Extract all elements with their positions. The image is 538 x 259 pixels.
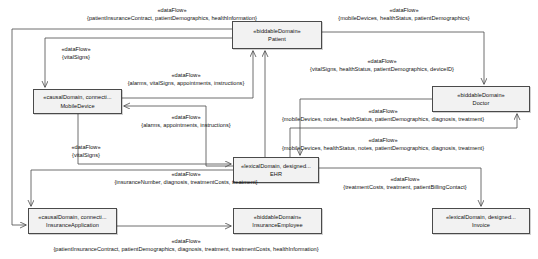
edge-label-e6-phenomena: {alarms, appointments, instructions} xyxy=(141,121,230,129)
edge-label-e5-phenomena: {vitalSigns, healthStatus, patientDemogr… xyxy=(310,65,454,73)
edge-label-e9: «dataFlow» {vitalSigns} xyxy=(71,143,100,159)
edge-label-e4-phenomena: {alarms, vitalSigns, appointments, instr… xyxy=(128,79,245,87)
edge-label-e8-stereotype: «dataFlow» xyxy=(282,136,484,144)
node-patient-name: Patient xyxy=(268,35,286,43)
edge-label-e12-stereotype: «dataFlow» xyxy=(53,237,318,245)
edge-label-e6: «dataFlow» {alarms, appointments, instru… xyxy=(141,113,230,129)
edge-label-e12-phenomena: {patientInsuranceContract, patientDemogr… xyxy=(53,245,318,253)
edge-label-e1-phenomena: {patientInsuranceContract, patientDemogr… xyxy=(87,14,257,22)
node-patient-stereotype: «biddableDomain» xyxy=(253,27,300,35)
node-mobiledevice[interactable]: «causalDomain, connecti... MobileDevice xyxy=(33,89,122,114)
uml-context-diagram: «biddableDomain» Patient «causalDomain, … xyxy=(0,0,538,259)
node-insuranceemployee[interactable]: «biddableDomain» InsuranceEmployee xyxy=(233,208,322,234)
edge-label-e7-phenomena: {mobileDevices, notes, healthStatus, pat… xyxy=(282,115,484,123)
node-insuranceapplication-name: InsuranceApplication xyxy=(46,221,99,229)
edge-label-e9-stereotype: «dataFlow» xyxy=(71,143,100,151)
node-mobiledevice-name: MobileDevice xyxy=(60,102,94,110)
edge-label-e12: «dataFlow» {patientInsuranceContract, pa… xyxy=(53,237,318,253)
node-invoice[interactable]: «lexicalDomain, designed... Invoice xyxy=(432,208,530,234)
edge-label-e2-stereotype: «dataFlow» xyxy=(61,45,90,53)
node-insuranceapplication[interactable]: «causalDomain, connecti... InsuranceAppl… xyxy=(28,208,117,234)
edge-label-e10-stereotype: «dataFlow» xyxy=(114,170,257,178)
node-patient[interactable]: «biddableDomain» Patient xyxy=(232,21,322,49)
edge-label-e1: «dataFlow» {patientInsuranceContract, pa… xyxy=(87,6,257,22)
node-insuranceemployee-stereotype: «biddableDomain» xyxy=(254,213,301,221)
edge-label-e11-phenomena: {treatmentCosts, treatment, patientBilli… xyxy=(343,183,467,191)
node-invoice-stereotype: «lexicalDomain, designed... xyxy=(446,213,516,221)
edge-label-e4-stereotype: «dataFlow» xyxy=(128,71,245,79)
node-doctor-stereotype: «biddableDomain» xyxy=(457,91,504,99)
edge-label-e5: «dataFlow» {vitalSigns, healthStatus, pa… xyxy=(310,57,454,73)
node-ehr-stereotype: «lexicalDomain, designed... xyxy=(241,162,311,170)
edge-label-e3: «dataFlow» {mobileDevices, healthStatus,… xyxy=(338,6,469,22)
edge-label-e3-stereotype: «dataFlow» xyxy=(338,6,469,14)
edge-label-e10-phenomena: {insuranceNumber, diagnosis, treatmentCo… xyxy=(114,178,257,186)
edge-label-e7-stereotype: «dataFlow» xyxy=(282,107,484,115)
edge-label-e8: «dataFlow» {mobileDevices, healthStatus,… xyxy=(282,136,484,152)
edge-label-e11: «dataFlow» {treatmentCosts, treatment, p… xyxy=(343,175,467,191)
edge-label-e2-phenomena: {vitalSigns} xyxy=(61,53,90,61)
edge-label-e7: «dataFlow» {mobileDevices, notes, health… xyxy=(282,107,484,123)
node-mobiledevice-stereotype: «causalDomain, connecti... xyxy=(43,93,111,101)
edge-label-e10: «dataFlow» {insuranceNumber, diagnosis, … xyxy=(114,170,257,186)
edge-label-e11-stereotype: «dataFlow» xyxy=(343,175,467,183)
node-ehr-name: EHR xyxy=(270,170,282,178)
node-invoice-name: Invoice xyxy=(472,221,490,229)
edge-label-e8-phenomena: {mobileDevices, healthStatus, notes, pat… xyxy=(282,144,484,152)
edge-label-e6-stereotype: «dataFlow» xyxy=(141,113,230,121)
edge-label-e4: «dataFlow» {alarms, vitalSigns, appointm… xyxy=(128,71,245,87)
node-insuranceapplication-stereotype: «causalDomain, connecti... xyxy=(38,213,106,221)
edge-label-e9-phenomena: {vitalSigns} xyxy=(71,151,100,159)
edge-label-e3-phenomena: {mobileDevices, healthStatus, patientDem… xyxy=(338,14,469,22)
node-insuranceemployee-name: InsuranceEmployee xyxy=(252,221,302,229)
edge-label-e1-stereotype: «dataFlow» xyxy=(87,6,257,14)
edge-label-e2: «dataFlow» {vitalSigns} xyxy=(61,45,90,61)
edge-label-e5-stereotype: «dataFlow» xyxy=(310,57,454,65)
